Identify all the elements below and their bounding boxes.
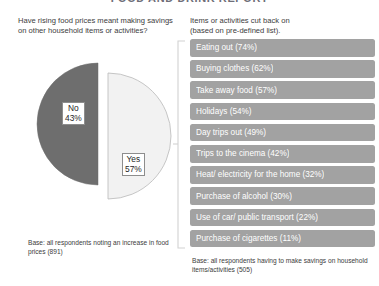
bar-label: Day trips out (49%) xyxy=(196,128,266,137)
pie-chart-svg xyxy=(18,58,186,208)
pie-label-no-value: 43% xyxy=(65,114,82,124)
bar-label: Buying clothes (62%) xyxy=(196,64,273,73)
bar-list-header: Items or activities cut back on (based o… xyxy=(190,16,374,37)
pie-label-yes-value: 57% xyxy=(125,165,142,175)
bar-label: Use of car/ public transport (22%) xyxy=(196,213,318,222)
bar-row[interactable]: Take away food (57%) xyxy=(190,81,375,99)
bar-label: Take away food (57%) xyxy=(196,86,277,95)
bar-label: Holidays (54%) xyxy=(196,107,252,116)
bar-list-panel: Items or activities cut back on (based o… xyxy=(190,16,376,280)
pie-chart-panel: Have rising food prices meant making sav… xyxy=(18,16,186,280)
bar-label: Trips to the cinema (42%) xyxy=(196,149,289,158)
bar-row[interactable]: Day trips out (49%) xyxy=(190,124,375,142)
slide-body: Have rising food prices meant making sav… xyxy=(0,0,379,286)
pie-label-no: No 43% xyxy=(62,102,85,125)
pie-question-text: Have rising food prices meant making sav… xyxy=(18,16,183,37)
bar-label: Purchase of cigarettes (11%) xyxy=(196,234,301,243)
bar-label: Purchase of alcohol (30%) xyxy=(196,192,292,201)
bar-row[interactable]: Purchase of cigarettes (11%) xyxy=(190,230,375,248)
bar-row[interactable]: Holidays (54%) xyxy=(190,103,375,121)
bar-list-base-note: Base: all respondents having to make sav… xyxy=(192,256,376,274)
pie-slice-yes[interactable] xyxy=(108,73,171,199)
bar-row[interactable]: Heat/ electricity for the home (32%) xyxy=(190,166,375,184)
bar-label: Heat/ electricity for the home (32%) xyxy=(196,170,324,179)
pie-chart: No 43% Yes 57% xyxy=(18,58,186,208)
pie-label-yes: Yes 57% xyxy=(122,153,145,176)
bar-list: Eating out (74%) Buying clothes (62%) Ta… xyxy=(190,39,376,251)
bar-row[interactable]: Buying clothes (62%) xyxy=(190,60,375,78)
pie-base-note: Base: all respondents noting an increase… xyxy=(28,238,188,256)
bar-row[interactable]: Use of car/ public transport (22%) xyxy=(190,209,375,227)
callout-bracket-icon xyxy=(173,40,187,249)
bar-row[interactable]: Trips to the cinema (42%) xyxy=(190,145,375,163)
bar-row[interactable]: Purchase of alcohol (30%) xyxy=(190,187,375,205)
bar-list-header-line1: Items or activities cut back on xyxy=(190,16,374,26)
bar-row[interactable]: Eating out (74%) xyxy=(190,39,375,57)
bar-list-header-line2: (based on pre-defined list). xyxy=(190,26,374,36)
bar-label: Eating out (74%) xyxy=(196,43,257,52)
